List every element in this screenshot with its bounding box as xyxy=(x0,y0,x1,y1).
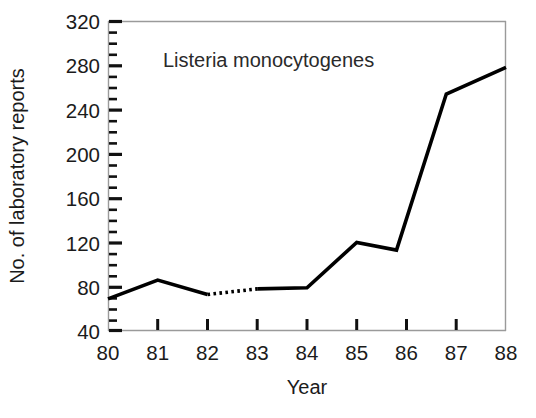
data-series-dotted-segment xyxy=(208,289,258,295)
y-tick-label: 120 xyxy=(66,232,100,255)
x-tick-label: 88 xyxy=(495,341,518,364)
x-tick-labels: 80 81 82 83 84 85 86 87 88 xyxy=(97,341,518,364)
x-tick-label: 81 xyxy=(146,341,169,364)
y-tick-label: 200 xyxy=(66,143,100,166)
data-series-line xyxy=(108,67,506,299)
y-tick-label: 320 xyxy=(66,10,100,33)
x-axis-ticks xyxy=(158,319,457,330)
x-tick-label: 87 xyxy=(445,341,468,364)
y-axis-label: No. of laboratory reports xyxy=(6,68,28,284)
y-tick-label: 160 xyxy=(66,187,100,210)
chart-figure: 320 280 240 200 160 120 80 40 80 81 82 8… xyxy=(0,0,536,418)
y-tick-labels: 320 280 240 200 160 120 80 40 xyxy=(66,10,100,343)
x-tick-label: 82 xyxy=(196,341,219,364)
series-title-annotation: Listeria monocytogenes xyxy=(163,49,374,71)
y-axis-minor-ticks xyxy=(109,33,117,321)
y-tick-label: 40 xyxy=(77,320,100,343)
x-tick-label: 84 xyxy=(296,341,319,364)
x-tick-label: 86 xyxy=(395,341,418,364)
line-chart-svg: 320 280 240 200 160 120 80 40 80 81 82 8… xyxy=(0,0,536,418)
y-tick-label: 80 xyxy=(77,276,100,299)
x-axis-label: Year xyxy=(287,376,328,398)
x-tick-label: 83 xyxy=(246,341,269,364)
x-tick-label: 85 xyxy=(345,341,368,364)
x-tick-label: 80 xyxy=(97,341,120,364)
y-tick-label: 240 xyxy=(66,99,100,122)
y-tick-label: 280 xyxy=(66,54,100,77)
